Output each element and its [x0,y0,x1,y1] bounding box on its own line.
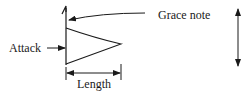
note-envelope-diagram: Grace note Attack Length [0,0,244,94]
length-label: Length [77,78,111,90]
attack-label: Attack [9,42,41,54]
envelope-shape [66,28,121,64]
grace-note-label: Grace note [158,9,210,21]
grace-note-arrow [69,13,145,20]
